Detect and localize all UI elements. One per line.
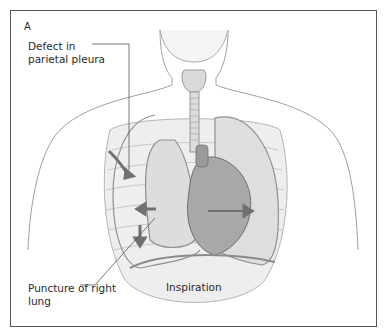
aorta	[196, 145, 208, 167]
label-puncture-right-lung: Puncture of right lung	[28, 282, 118, 308]
panel-label: A	[24, 20, 31, 33]
label-defect-parietal-pleura: Defect in parietal pleura	[28, 40, 118, 66]
label-inspiration: Inspiration	[166, 281, 222, 294]
chin-outline	[160, 30, 228, 62]
thyroid	[182, 70, 206, 92]
